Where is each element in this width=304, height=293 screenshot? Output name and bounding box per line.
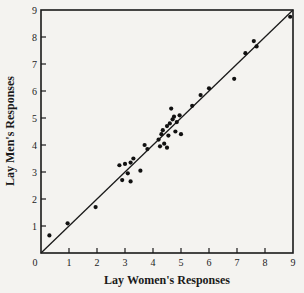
data-point	[232, 77, 236, 81]
x-tick-label: 0	[33, 257, 38, 268]
y-tick-label: 4	[32, 140, 37, 151]
data-point	[179, 132, 183, 136]
data-point	[169, 106, 173, 110]
data-point	[162, 142, 166, 146]
data-point	[288, 15, 292, 19]
x-tick-label: 8	[263, 257, 268, 268]
data-point	[94, 205, 98, 209]
scatter-chart: 0123456789 123456789 Lay Women's Respons…	[0, 0, 304, 293]
data-point	[126, 171, 130, 175]
data-points	[47, 15, 292, 238]
data-point	[175, 120, 179, 124]
data-point	[255, 44, 259, 48]
y-axis-title: Lay Men's Responses	[3, 76, 17, 186]
data-point	[190, 104, 194, 108]
x-tick-label: 3	[123, 257, 128, 268]
y-ticks: 123456789	[32, 5, 46, 232]
data-point	[173, 129, 177, 133]
data-point	[138, 169, 142, 173]
data-point	[129, 179, 133, 183]
data-point	[66, 221, 70, 225]
x-ticks: 0123456789	[33, 248, 296, 268]
data-point	[166, 133, 170, 137]
data-point	[207, 86, 211, 90]
y-tick-label: 6	[32, 86, 37, 97]
data-point	[168, 121, 172, 125]
x-tick-label: 5	[179, 257, 184, 268]
y-tick-label: 7	[32, 59, 37, 70]
data-point	[252, 39, 256, 43]
y-tick-label: 9	[32, 5, 37, 16]
data-point	[243, 51, 247, 55]
data-point	[157, 138, 161, 142]
data-point	[172, 115, 176, 119]
data-point	[161, 128, 165, 132]
x-tick-label: 4	[151, 257, 156, 268]
y-tick-label: 2	[32, 194, 37, 205]
y-tick-label: 1	[32, 221, 37, 232]
data-point	[129, 160, 133, 164]
data-point	[159, 132, 163, 136]
data-point	[131, 156, 135, 160]
data-point	[117, 163, 121, 167]
x-tick-label: 9	[291, 257, 296, 268]
x-tick-label: 7	[235, 257, 240, 268]
y-tick-label: 8	[32, 32, 37, 43]
data-point	[120, 178, 124, 182]
data-point	[143, 143, 147, 147]
data-point	[145, 147, 149, 151]
data-point	[199, 93, 203, 97]
x-tick-label: 1	[67, 257, 72, 268]
x-axis-title: Lay Women's Responses	[104, 273, 230, 287]
data-point	[123, 162, 127, 166]
data-point	[47, 233, 51, 237]
data-point	[178, 113, 182, 117]
data-point	[158, 144, 162, 148]
x-tick-label: 6	[207, 257, 212, 268]
y-tick-label: 3	[32, 167, 37, 178]
x-tick-label: 2	[95, 257, 100, 268]
y-tick-label: 5	[32, 113, 37, 124]
data-point	[165, 146, 169, 150]
